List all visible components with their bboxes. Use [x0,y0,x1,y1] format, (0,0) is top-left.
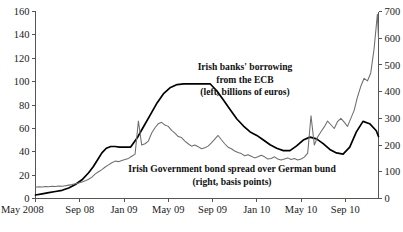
right-axis-tick-label: 600 [385,33,401,44]
left-axis-tick-label: 40 [19,146,30,157]
right-axis-tick-label: 200 [385,140,401,151]
x-axis-tick-label: May 2008 [1,204,44,215]
right-axis-tick-label: 0 [385,193,390,204]
left-axis-tick-label: 160 [14,6,30,17]
x-axis-tick-label: Jan 09 [110,204,137,215]
left-axis-tick-label: 60 [19,123,30,134]
x-axis-tick-label: May 09 [152,204,184,215]
right-axis-tick-label: 700 [385,6,401,17]
left-axis-tick-label: 120 [14,53,30,64]
x-axis-tick-label: Sep 08 [65,204,94,215]
spread-annotation-line: Irish Government bond spread over German… [128,163,336,174]
ecb-annotation-line: Irish banks' borrowing [198,61,293,72]
x-axis-tick-label: Sep 09 [198,204,227,215]
right-axis-tick-label: 500 [385,60,401,71]
ecb-annotation: Irish banks' borrowingfrom the ECB(left,… [198,61,293,98]
left-axis-tick-label: 100 [14,76,30,87]
left-axis-tick-label: 0 [24,193,29,204]
x-axis-tick-label: Jan 10 [243,204,270,215]
right-axis-tick-label: 100 [385,166,401,177]
chart-container: 0204060801001201401600100200300400500600… [0,0,403,232]
ecb-annotation-line: (left, billions of euros) [200,86,289,98]
series-line-bond-spread [36,14,379,187]
spread-annotation-line: (right, basis points) [192,176,271,188]
x-axis-tick-label: Sep 10 [331,204,360,215]
left-axis-tick-label: 20 [19,170,30,181]
left-axis-tick-label: 140 [14,29,30,40]
left-axis-tick-label: 80 [19,100,30,111]
x-axis-tick-label: May 10 [285,204,317,215]
line-chart: 0204060801001201401600100200300400500600… [0,0,403,232]
annotations-group: Irish banks' borrowingfrom the ECB(left,… [128,61,336,188]
spread-annotation: Irish Government bond spread over German… [128,163,336,188]
right-axis-tick-label: 300 [385,113,401,124]
right-axis-tick-label: 400 [385,86,401,97]
ecb-annotation-line: from the ECB [216,74,274,85]
